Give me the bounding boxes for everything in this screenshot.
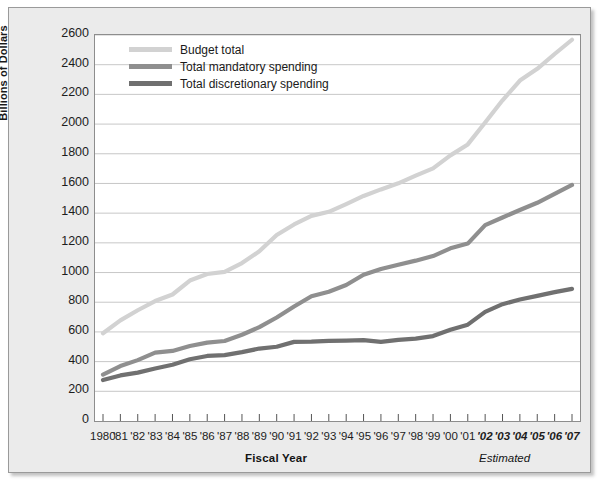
x-tick-label: '03 (495, 431, 511, 443)
y-tick-label: 2200 (45, 86, 89, 99)
legend-label: Budget total (180, 43, 244, 57)
x-tick-label: '92 (304, 431, 319, 443)
x-tick-label: '02 (477, 431, 493, 443)
x-tick-label: '07 (564, 431, 580, 443)
y-tick-label: 400 (45, 354, 89, 367)
y-tick-label: 200 (45, 383, 89, 396)
y-tick-label: 2000 (45, 116, 89, 129)
x-tick-label: '99 (426, 431, 441, 443)
x-tick-label: '90 (269, 431, 284, 443)
plot-area (94, 34, 581, 422)
y-tick-label: 0 (45, 413, 89, 426)
x-tick-label: '94 (339, 431, 354, 443)
legend-swatch-icon (129, 81, 172, 86)
x-tick-label: '91 (287, 431, 302, 443)
x-tick-label: '85 (182, 431, 197, 443)
x-axis-tick-labels: 1980'81'82'83'84'85'86'87'88'89'90'91'92… (94, 431, 583, 449)
x-tick-label: '83 (148, 431, 163, 443)
x-tick-label: '04 (512, 431, 528, 443)
legend-swatch-icon (129, 64, 172, 69)
line-chart-svg (95, 35, 580, 421)
y-tick-label: 1800 (45, 146, 89, 159)
x-axis-title: Fiscal Year (245, 452, 307, 464)
legend-item: Budget total (129, 41, 369, 58)
y-tick-label: 1600 (45, 176, 89, 189)
x-tick-label: '82 (130, 431, 145, 443)
x-tick-label: '95 (356, 431, 371, 443)
y-axis-tick-labels: 2600240022002000180016001400120010008006… (37, 8, 89, 474)
y-tick-label: 1400 (45, 205, 89, 218)
x-tick-label: 1980 (90, 431, 116, 443)
x-tick-label: '05 (529, 431, 545, 443)
legend-item: Total mandatory spending (129, 58, 369, 75)
x-tick-label: '87 (217, 431, 232, 443)
x-tick-label: '97 (391, 431, 406, 443)
y-tick-label: 1000 (45, 265, 89, 278)
x-tick-label: '96 (373, 431, 388, 443)
legend-item: Total discretionary spending (129, 75, 369, 92)
y-tick-label: 600 (45, 324, 89, 337)
y-tick-label: 800 (45, 294, 89, 307)
x-tick-label: '86 (200, 431, 215, 443)
chart-legend: Budget totalTotal mandatory spendingTota… (129, 41, 369, 92)
legend-swatch-icon (129, 47, 172, 52)
x-tick-label: '93 (321, 431, 336, 443)
y-tick-label: 2600 (45, 27, 89, 40)
x-tick-label: '01 (460, 431, 475, 443)
estimated-annotation: Estimated (479, 452, 530, 464)
x-tick-label: '89 (252, 431, 267, 443)
x-tick-label: '98 (408, 431, 423, 443)
legend-label: Total discretionary spending (180, 77, 329, 91)
chart-figure: 2600240022002000180016001400120010008006… (8, 7, 591, 473)
legend-label: Total mandatory spending (180, 60, 317, 74)
x-tick-label: '06 (547, 431, 563, 443)
y-tick-label: 2400 (45, 57, 89, 70)
x-tick-label: '84 (165, 431, 180, 443)
x-tick-label: '00 (443, 431, 458, 443)
x-tick-label: '88 (235, 431, 250, 443)
y-axis-title: Billions of Dollars (0, 0, 9, 163)
y-tick-label: 1200 (45, 235, 89, 248)
x-tick-label: '81 (113, 431, 128, 443)
